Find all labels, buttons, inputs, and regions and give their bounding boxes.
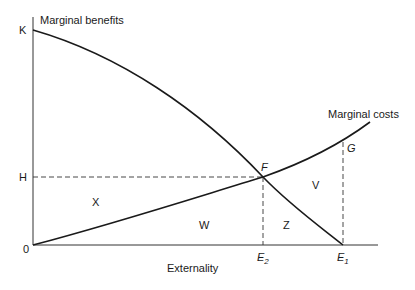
label-k: K xyxy=(19,24,27,36)
label-e1: E1 xyxy=(337,251,349,266)
region-v: V xyxy=(312,179,320,191)
label-h: H xyxy=(19,171,27,183)
label-point-g: G xyxy=(347,142,356,154)
region-z: Z xyxy=(283,219,290,231)
externality-diagram: K H 0 Marginal benefits Marginal costs F… xyxy=(0,0,415,290)
label-origin: 0 xyxy=(23,243,29,255)
marginal-benefits-curve xyxy=(33,30,343,245)
region-w: W xyxy=(199,219,210,231)
label-e2: E2 xyxy=(257,251,269,266)
x-axis-title: Externality xyxy=(167,262,219,274)
label-marginal-costs: Marginal costs xyxy=(328,108,399,120)
region-x: X xyxy=(92,196,100,208)
label-marginal-benefits: Marginal benefits xyxy=(40,14,124,26)
label-point-f: F xyxy=(261,161,269,173)
